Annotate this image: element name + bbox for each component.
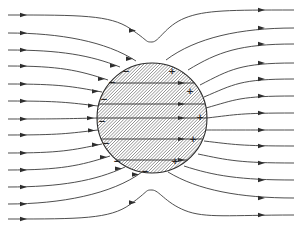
arrow-right-icon xyxy=(20,151,27,155)
arrow-right-icon xyxy=(20,133,27,137)
field-line xyxy=(8,190,294,219)
arrow-right-icon xyxy=(20,99,27,103)
arrow-right-icon xyxy=(20,185,27,189)
arrow-right-icon xyxy=(92,143,99,147)
arrow-right-icon xyxy=(20,202,27,206)
arrow-right-icon xyxy=(258,111,265,115)
negative-charge: − xyxy=(108,77,116,87)
field-line-incoming xyxy=(8,172,142,204)
arrow-right-icon xyxy=(20,13,27,17)
field-line-outgoing xyxy=(204,79,294,97)
field-line-outgoing xyxy=(207,113,294,118)
field-line-outgoing xyxy=(184,166,294,180)
arrow-right-icon xyxy=(88,128,95,132)
positive-charge: + xyxy=(189,134,197,144)
arrow-right-icon xyxy=(258,128,265,132)
hatch-line xyxy=(201,63,302,173)
dielectric-sphere-diagram: −−−−−−−+++++ xyxy=(0,0,302,230)
field-line-incoming xyxy=(8,50,120,67)
field-line-outgoing xyxy=(188,44,294,70)
arrow-right-icon xyxy=(20,168,27,172)
field-line-incoming xyxy=(8,33,136,61)
arrow-right-icon xyxy=(20,82,27,86)
arrow-right-icon xyxy=(20,31,27,35)
arrow-right-icon xyxy=(20,64,27,68)
negative-charge: − xyxy=(102,138,110,148)
arrow-right-icon xyxy=(100,155,107,159)
arrow-right-icon xyxy=(258,161,265,165)
negative-charge: − xyxy=(141,166,149,176)
field-line-incoming xyxy=(8,66,108,80)
arrow-right-icon xyxy=(20,48,27,52)
field-line xyxy=(8,10,294,42)
arrow-right-icon xyxy=(258,144,265,148)
arrow-right-icon xyxy=(258,213,265,217)
arrow-right-icon xyxy=(87,116,94,120)
field-line-outgoing xyxy=(168,172,294,198)
positive-charge: + xyxy=(186,86,194,96)
positive-charge: + xyxy=(171,156,179,166)
arrow-right-icon xyxy=(178,102,185,106)
arrow-right-icon xyxy=(92,89,99,93)
negative-charge: − xyxy=(122,66,130,76)
positive-charge: + xyxy=(168,66,176,76)
field-line-outgoing xyxy=(206,96,294,108)
arrow-right-icon xyxy=(178,137,185,141)
field-arrow-icons xyxy=(20,8,265,221)
hatch-line xyxy=(198,63,302,173)
arrow-right-icon xyxy=(20,217,27,221)
arrow-right-icon xyxy=(258,178,265,182)
positive-charge: + xyxy=(196,112,204,122)
arrow-right-icon xyxy=(258,94,265,98)
field-line-incoming xyxy=(8,156,110,170)
hatch-line xyxy=(205,63,302,173)
arrow-right-icon xyxy=(20,117,27,121)
negative-charge: − xyxy=(113,156,121,166)
field-line-outgoing xyxy=(204,141,294,146)
field-line-outgoing xyxy=(198,154,294,163)
arrow-right-icon xyxy=(88,103,95,107)
arrow-right-icon xyxy=(98,77,105,81)
negative-charge: − xyxy=(100,94,108,104)
arrow-right-icon xyxy=(258,8,265,12)
negative-charge: − xyxy=(98,116,106,126)
